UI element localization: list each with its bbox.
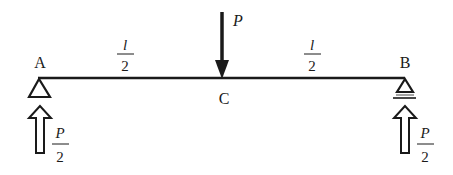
reaction-label-b: P 2	[417, 125, 434, 165]
span-label-left: l 2	[117, 37, 134, 74]
support-a-triangle-icon	[29, 79, 50, 97]
reaction-arrow-a-icon	[29, 106, 51, 153]
reaction-label-a: P 2	[52, 125, 69, 165]
svg-text:2: 2	[308, 58, 316, 74]
svg-text:P: P	[419, 125, 429, 141]
load-arrow-p	[215, 12, 229, 79]
svg-text:2: 2	[421, 149, 429, 165]
svg-text:l: l	[123, 37, 127, 53]
label-point-a: A	[34, 54, 46, 71]
svg-text:l: l	[310, 37, 314, 53]
label-point-b: B	[400, 54, 411, 71]
span-label-right: l 2	[304, 37, 321, 74]
svg-text:2: 2	[56, 149, 64, 165]
beam-diagram: A B C P l 2 l 2 P 2 P 2	[0, 0, 453, 175]
label-load-p: P	[232, 12, 243, 29]
reaction-arrow-b-icon	[394, 106, 416, 153]
support-b-roller-icon	[393, 79, 416, 98]
arrowhead-down-icon	[215, 60, 229, 79]
label-point-c: C	[219, 90, 230, 107]
svg-text:2: 2	[121, 58, 129, 74]
svg-text:P: P	[54, 125, 64, 141]
